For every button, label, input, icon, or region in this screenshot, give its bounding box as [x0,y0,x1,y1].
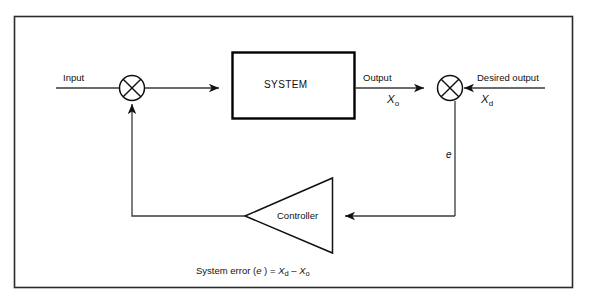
diagram-page: Input SYSTEM Output Xo Desired output Xd… [0,0,589,304]
output-label: Output [363,73,392,83]
caption-operator: – [289,265,300,276]
output-variable-label: Xo [387,94,399,106]
output-variable-symbol: X [387,93,395,105]
caption-term1-subscript: d [284,269,288,278]
desired-variable-symbol: X [481,93,489,105]
input-label: Input [63,73,84,83]
caption-system-error: System error (e ) = Xd – Xo [196,266,310,276]
caption-term2-symbol: X [299,265,305,276]
caption-prefix: System error ( [196,265,256,276]
caption-mid: ) = [261,265,278,276]
desired-output-label: Desired output [477,73,539,83]
output-variable-subscript: o [395,99,399,108]
desired-variable-label: Xd [481,94,493,106]
desired-variable-subscript: d [489,99,493,108]
controller-feedback-line [132,104,245,216]
system-block-label: SYSTEM [264,80,308,90]
block-diagram-canvas [0,0,589,304]
summing-junction-error [438,76,463,101]
controller-label: Controller [277,211,318,221]
error-symbol-label: e [446,150,452,160]
summing-junction-input [120,76,145,101]
caption-term2-subscript: o [306,269,310,278]
